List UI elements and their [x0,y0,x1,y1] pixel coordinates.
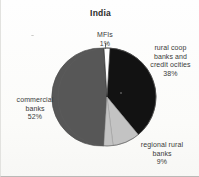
pie-label-rural-coop-line2: banks and [142,53,199,62]
pie-label-rural-coop-line3: credit ocities [142,61,199,70]
pie-label-rural-coop-banks: rural coop banks and credit ocities 38% [142,44,199,78]
pie-label-regional-line2: banks [127,150,197,159]
pie-label-regional-rural-banks: regional rural banks 9% [127,141,197,167]
scan-speck-icon [120,92,122,94]
pie-label-mfis: MFIs 1% [79,31,131,48]
pie-chart-figure: India MFIs 1% rural coop banks and credi… [0,0,199,177]
pie-label-mfis-value: 1% [79,40,131,49]
pie-label-mfis-name: MFIs [97,31,113,38]
pie-label-regional-value: 9% [127,158,197,167]
scan-artifact-icon [31,35,34,36]
pie-label-commercial-line1: commercial [17,96,54,103]
pie-label-regional-line1: regional rural [141,141,183,148]
pie-label-rural-coop-value: 38% [142,70,199,79]
pie-label-commercial-value: 52% [4,113,66,122]
pie-label-rural-coop-line1: rural coop [154,44,186,51]
pie-label-commercial-line2: banks [4,105,66,114]
pie-label-commercial-banks: commercial banks 52% [4,96,66,122]
